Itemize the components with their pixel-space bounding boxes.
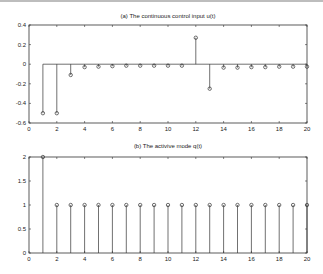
y-tick-label: 0	[23, 61, 27, 67]
x-tick-label: 14	[220, 256, 227, 262]
subplot-a: (a) The continuous control input u(t)024…	[16, 13, 311, 132]
subplot-title: (b) The activive mode q(t)	[134, 143, 202, 149]
x-tick-label: 12	[192, 126, 199, 132]
x-tick-label: 10	[165, 256, 172, 262]
y-tick-label: 0	[23, 250, 27, 256]
x-tick-label: 12	[192, 256, 199, 262]
y-tick-label: 0.2	[18, 42, 27, 48]
y-tick-label: 1.5	[18, 178, 27, 184]
x-tick-label: 18	[276, 126, 283, 132]
subplot-title: (a) The continuous control input u(t)	[121, 13, 216, 19]
y-tick-label: 1	[23, 202, 27, 208]
x-tick-label: 4	[83, 256, 87, 262]
x-tick-label: 14	[220, 126, 227, 132]
y-tick-label: -0.2	[16, 81, 27, 87]
x-tick-label: 20	[304, 126, 311, 132]
y-tick-label: 0.4	[18, 22, 27, 28]
x-tick-label: 18	[276, 256, 283, 262]
figure: (a) The continuous control input u(t)024…	[0, 0, 323, 274]
y-tick-label: 0.5	[18, 226, 27, 232]
x-tick-label: 4	[83, 126, 87, 132]
y-tick-label: -0.6	[16, 120, 27, 126]
x-tick-label: 16	[248, 256, 255, 262]
x-tick-label: 16	[248, 126, 255, 132]
y-tick-label: 2	[23, 154, 27, 160]
x-tick-label: 2	[55, 126, 59, 132]
x-tick-label: 0	[27, 256, 31, 262]
x-tick-label: 2	[55, 256, 59, 262]
x-tick-label: 6	[111, 256, 115, 262]
x-tick-label: 20	[304, 256, 311, 262]
x-tick-label: 8	[139, 256, 143, 262]
x-tick-label: 8	[139, 126, 143, 132]
y-tick-label: -0.4	[16, 100, 27, 106]
subplot-b: (b) The activive mode q(t)02468101214161…	[18, 143, 311, 262]
x-tick-label: 0	[27, 126, 31, 132]
x-tick-label: 6	[111, 126, 115, 132]
x-tick-label: 10	[165, 126, 172, 132]
